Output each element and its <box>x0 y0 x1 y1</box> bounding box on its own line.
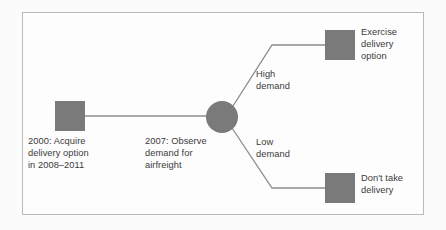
node-decision-start[interactable] <box>55 101 85 131</box>
node-label-outcome-dont-take: Don't take delivery <box>361 172 403 196</box>
node-label-decision-start: 2000: Acquire delivery option in 2008–20… <box>28 135 89 172</box>
node-label-outcome-exercise: Exercise delivery option <box>361 26 397 63</box>
node-chance[interactable] <box>206 101 238 133</box>
node-label-chance-node: 2007: Observe demand for airfreight <box>145 135 207 172</box>
node-outcome-exercise[interactable] <box>325 30 355 60</box>
diagram-page: 2000: Acquire delivery option in 2008–20… <box>0 0 446 230</box>
branch-label-low-demand: Low demand <box>256 136 290 160</box>
node-outcome-dont-take[interactable] <box>325 173 355 203</box>
branch-label-high-demand: High demand <box>256 68 290 92</box>
